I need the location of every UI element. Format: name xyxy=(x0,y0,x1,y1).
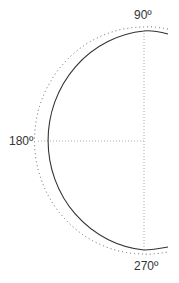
label-270-degrees: 270º xyxy=(134,260,158,272)
solid-arc xyxy=(48,31,168,250)
label-180-degrees: 180º xyxy=(9,135,33,147)
dotted-arc xyxy=(35,27,168,255)
label-90-degrees: 90º xyxy=(134,9,152,21)
